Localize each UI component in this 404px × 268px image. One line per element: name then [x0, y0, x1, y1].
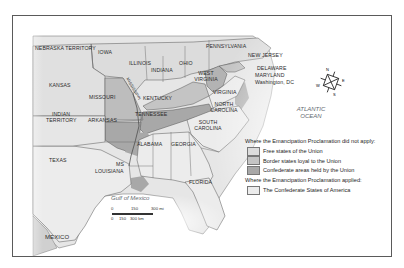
label-virginia: Virginia: [213, 90, 237, 96]
legend-swatch-confederate-union-held: [247, 166, 260, 175]
scale-km-150: 150: [119, 216, 126, 221]
label-delaware: Delaware: [257, 66, 287, 72]
legend: Where the Emancipation Proclamation did …: [245, 138, 391, 195]
label-tennessee: Tennessee: [135, 112, 167, 118]
scale-bar: 0 150 300 mi 0 150 300 km: [111, 206, 171, 226]
label-illinois: Illinois: [129, 61, 151, 67]
legend-item-border-states: Border states loyal to the Union: [247, 156, 391, 166]
label-mexico: Mexico: [45, 235, 69, 241]
label-kentucky: Kentucky: [143, 96, 172, 102]
compass-s: S: [333, 92, 336, 97]
label-arkansas: Arkansas: [88, 118, 117, 124]
scale-line: [112, 213, 153, 215]
scale-km-300: 300 km: [130, 216, 144, 221]
label-ohio: Ohio: [179, 61, 193, 67]
label-nebraska-territory: Nebraska Territory: [35, 46, 96, 52]
label-new-jersey: New Jersey: [248, 53, 283, 59]
label-louisiana: Louisiana: [95, 169, 124, 175]
label-north-carolina: North Carolina: [209, 102, 239, 113]
label-south-carolina: South Carolina: [193, 120, 223, 131]
compass-rose-icon: N E S W: [317, 68, 345, 96]
legend-item-confederate-union-held: Confederate areas held by the Union: [247, 166, 391, 176]
label-kansas: Kansas: [49, 83, 71, 89]
label-indiana: Indiana: [151, 68, 173, 74]
compass-n: N: [326, 67, 329, 72]
label-florida: Florida: [189, 180, 212, 186]
scale-mi-300: 300 mi: [151, 206, 164, 211]
legend-label-free-states: Free states of the Union: [263, 148, 323, 154]
legend-label-border-states: Border states loyal to the Union: [263, 158, 341, 164]
label-indian-territory: Indian Territory: [46, 112, 76, 123]
legend-heading-applied: Where the Emancipation Proclamation appl…: [245, 177, 391, 184]
label-georgia: Georgia: [171, 142, 196, 148]
label-texas: Texas: [49, 158, 67, 164]
map-frame: Nebraska Territory Iowa Illinois Indiana…: [12, 15, 392, 257]
legend-swatch-free-states: [247, 147, 260, 156]
compass-w: W: [316, 83, 320, 88]
scale-mi-0: 0: [111, 206, 113, 211]
legend-swatch-confederate-states: [247, 186, 260, 195]
map-graphic: [13, 16, 391, 256]
label-missouri: Missouri: [89, 95, 115, 101]
label-gulf-of-mexico: Gulf of Mexico: [111, 195, 149, 202]
scale-km-0: 0: [111, 216, 113, 221]
label-pennsylvania: Pennsylvania: [206, 44, 246, 50]
label-ms: MS: [116, 162, 124, 168]
legend-heading-not-applied: Where the Emancipation Proclamation did …: [245, 138, 391, 145]
legend-item-free-states: Free states of the Union: [247, 147, 391, 157]
label-atlantic-ocean: ATLANTIC OCEAN: [287, 106, 335, 120]
label-alabama: Alabama: [137, 142, 162, 148]
label-washington-dc: Washington, DC: [255, 80, 294, 86]
label-maryland: Maryland: [255, 73, 285, 79]
compass-e: E: [342, 78, 345, 83]
scale-mi-150: 150: [131, 206, 138, 211]
label-west-virginia: West Virginia: [193, 71, 219, 82]
legend-label-confederate-states: The Confederate States of America: [263, 187, 350, 193]
label-iowa: Iowa: [98, 50, 112, 56]
legend-item-confederate-states: The Confederate States of America: [247, 186, 391, 196]
legend-label-confederate-union-held: Confederate areas held by the Union: [263, 167, 354, 173]
legend-swatch-border-states: [247, 156, 260, 165]
